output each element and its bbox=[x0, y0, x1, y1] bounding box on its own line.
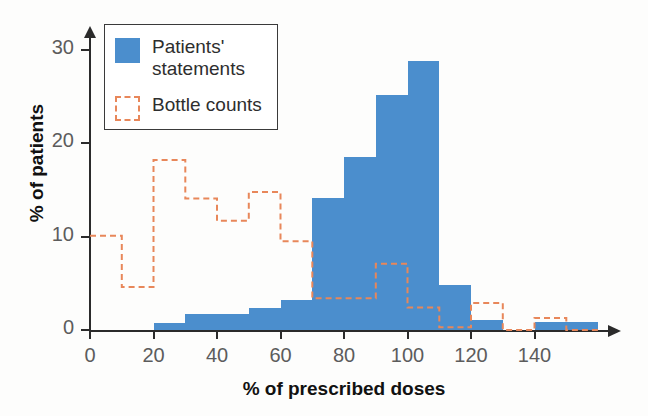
legend: Patients' statements Bottle counts bbox=[104, 24, 278, 130]
histogram-bar bbox=[566, 322, 598, 330]
x-tick-label: 80 bbox=[322, 344, 366, 367]
y-tick-mark bbox=[81, 236, 90, 238]
x-tick-mark bbox=[89, 330, 91, 339]
histogram-bar bbox=[344, 157, 376, 330]
histogram-bar bbox=[376, 95, 408, 330]
x-tick-label: 20 bbox=[132, 344, 176, 367]
histogram-figure: % of patients % of prescribed doses 0102… bbox=[0, 0, 648, 416]
x-tick-mark bbox=[534, 330, 536, 339]
histogram-bar bbox=[154, 323, 186, 330]
x-tick-mark bbox=[153, 330, 155, 339]
histogram-bar bbox=[439, 285, 471, 330]
x-tick-label: 100 bbox=[386, 344, 430, 367]
y-axis-line bbox=[89, 36, 91, 332]
x-axis-line bbox=[90, 330, 610, 332]
x-tick-mark bbox=[216, 330, 218, 339]
histogram-bar bbox=[249, 308, 281, 330]
dashed-square-swatch-icon bbox=[115, 96, 140, 121]
y-tick-label: 10 bbox=[30, 223, 74, 246]
y-axis-arrowhead bbox=[84, 26, 96, 38]
y-tick-label: 0 bbox=[30, 316, 74, 339]
x-tick-mark bbox=[470, 330, 472, 339]
histogram-bar bbox=[408, 61, 440, 330]
histogram-bar bbox=[535, 322, 567, 330]
filled-square-swatch-icon bbox=[115, 38, 140, 63]
x-axis-title: % of prescribed doses bbox=[90, 378, 598, 400]
y-tick-label: 30 bbox=[30, 36, 74, 59]
histogram-bar bbox=[471, 320, 503, 330]
legend-item-bottle-counts: Bottle counts bbox=[115, 94, 262, 121]
x-tick-mark bbox=[343, 330, 345, 339]
x-tick-label: 60 bbox=[259, 344, 303, 367]
legend-item-patients-statements: Patients' statements bbox=[115, 36, 245, 80]
x-tick-mark bbox=[407, 330, 409, 339]
histogram-bar bbox=[281, 300, 313, 330]
bottle-counts-step-line bbox=[90, 160, 598, 330]
x-tick-label: 140 bbox=[513, 344, 557, 367]
histogram-bar bbox=[185, 314, 217, 330]
histogram-bar bbox=[312, 198, 344, 330]
y-tick-mark bbox=[81, 49, 90, 51]
x-axis-arrowhead bbox=[608, 325, 621, 337]
y-tick-label: 20 bbox=[30, 129, 74, 152]
x-tick-label: 40 bbox=[195, 344, 239, 367]
y-tick-mark bbox=[81, 142, 90, 144]
legend-item-label: Bottle counts bbox=[152, 94, 262, 116]
legend-item-label: Patients' statements bbox=[152, 36, 245, 80]
x-tick-mark bbox=[280, 330, 282, 339]
x-tick-label: 120 bbox=[449, 344, 493, 367]
histogram-bar bbox=[217, 314, 249, 330]
x-tick-label: 0 bbox=[68, 344, 112, 367]
